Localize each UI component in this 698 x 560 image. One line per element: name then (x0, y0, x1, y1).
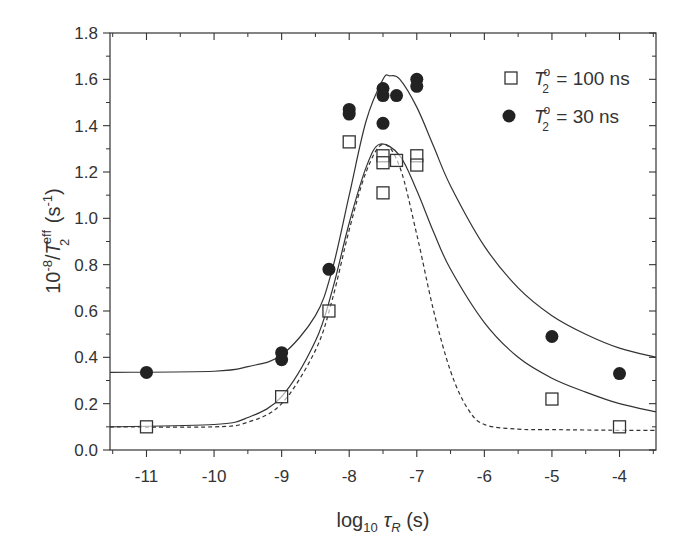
y-axis-title: 10-8/Teff2 (s-1) (39, 188, 72, 294)
y-tick-label: 0.6 (74, 302, 98, 321)
y-tick-label: 1.8 (74, 24, 98, 43)
data-point-circle (410, 80, 423, 93)
legend-marker-circle (503, 110, 516, 123)
data-point-circle (613, 367, 626, 380)
x-tick-label: -10 (202, 467, 227, 486)
x-tick-label: -4 (612, 467, 627, 486)
y-tick-label: 0.0 (74, 441, 98, 460)
x-tick-label: -9 (274, 467, 289, 486)
x-tick-label: -8 (342, 467, 357, 486)
data-point-square (377, 157, 389, 169)
x-axis-title: log10τR (s) (337, 509, 430, 535)
x-tick-label: -6 (477, 467, 492, 486)
data-point-square (140, 421, 152, 433)
data-point-circle (390, 89, 403, 102)
x-tick-label: -7 (409, 467, 424, 486)
data-point-square (546, 393, 558, 405)
y-tick-label: 1.0 (74, 209, 98, 228)
y-tick-label: 1.4 (74, 117, 98, 136)
legend-marker-square (505, 72, 517, 84)
data-point-circle (322, 263, 335, 276)
chart: -11-10-9-8-7-6-5-4 0.00.20.40.60.81.01.2… (0, 0, 698, 560)
data-point-square (391, 154, 403, 166)
y-tick-label: 1.6 (74, 70, 98, 89)
y-tick-label: 0.2 (74, 395, 98, 414)
y-axis: 0.00.20.40.60.81.01.21.41.61.8 (74, 24, 656, 460)
x-tick-label: -5 (544, 467, 559, 486)
data-point-circle (377, 89, 390, 102)
data-point-circle (275, 353, 288, 366)
legend: To2 = 100 ns To2 = 30 ns (503, 65, 630, 134)
data-point-square (323, 305, 335, 317)
y-tick-label: 0.4 (74, 348, 98, 367)
data-point-circle (140, 366, 153, 379)
data-point-square (377, 187, 389, 199)
data-point-square (614, 421, 626, 433)
legend-label-30ns: To2 = 30 ns (534, 103, 619, 134)
y-tick-label: 0.8 (74, 256, 98, 275)
data-point-circle (343, 108, 356, 121)
y-tick-label: 1.2 (74, 163, 98, 182)
data-point-square (276, 391, 288, 403)
data-point-circle (545, 330, 558, 343)
legend-label-100ns: To2 = 100 ns (534, 65, 630, 96)
data-point-circle (377, 117, 390, 130)
data-point-square (411, 159, 423, 171)
data-point-square (343, 136, 355, 148)
x-tick-label: -11 (135, 467, 158, 486)
